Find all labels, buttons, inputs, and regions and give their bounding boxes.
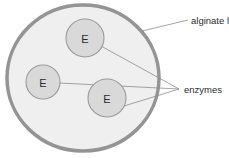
alginate-annotation-label: alginate l <box>191 15 229 26</box>
enzyme-label-bottom-right: E <box>103 93 110 105</box>
enzyme-label-top: E <box>81 33 88 45</box>
alginate-bead-diagram: E E E alginate l enzymes <box>0 0 229 158</box>
enzymes-annotation-label: enzymes <box>184 84 222 95</box>
diagram-canvas: E E E alginate l enzymes <box>0 0 229 158</box>
enzyme-label-left: E <box>39 77 46 89</box>
alginate-leader-line <box>142 20 188 31</box>
